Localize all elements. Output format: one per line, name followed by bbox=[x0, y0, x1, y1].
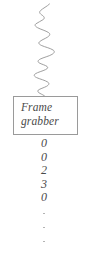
frame-grabber-box: Frame grabber bbox=[13, 96, 78, 135]
ellipsis-dot bbox=[43, 213, 44, 214]
frame-grabber-label: Frame grabber bbox=[21, 101, 59, 128]
digital-output-values: 0 0 2 3 0 bbox=[0, 137, 88, 205]
output-value: 0 bbox=[0, 151, 88, 165]
output-value: 0 bbox=[0, 191, 88, 205]
output-value: 3 bbox=[0, 178, 88, 192]
output-value: 0 bbox=[0, 137, 88, 151]
waveform-path bbox=[34, 4, 54, 96]
ellipsis-dot bbox=[43, 227, 44, 228]
analog-input-waveform bbox=[0, 0, 88, 100]
output-value: 2 bbox=[0, 164, 88, 178]
frame-grabber-diagram: Frame grabber 0 0 2 3 0 bbox=[0, 0, 88, 261]
vertical-ellipsis-icon bbox=[0, 213, 88, 255]
ellipsis-dot bbox=[43, 241, 44, 242]
